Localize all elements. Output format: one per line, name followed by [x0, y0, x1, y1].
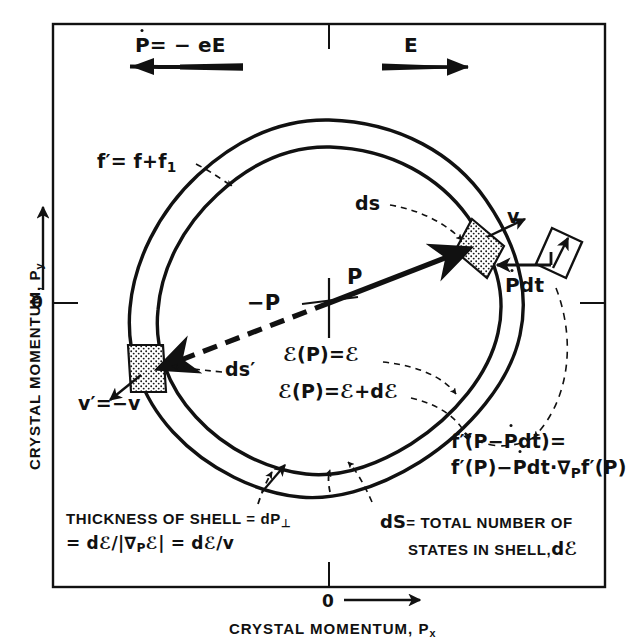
- leader-ds-prime: [172, 366, 222, 372]
- caption-thickness-line2-text: = dℰ/|∇: [66, 533, 136, 553]
- figure-canvas: P= − eE E f′= f+f1 ds ds′ v v′=−v P −P ℰ…: [0, 0, 626, 644]
- caption-thickness-line2-tail: ℰ| = dℰ/v: [146, 533, 234, 553]
- y-axis-title-sub: y: [33, 263, 45, 270]
- caption-total-states-line1-rest: = TOTAL NUMBER OF: [406, 514, 572, 531]
- caption-thickness-line1-text: THICKNESS OF SHELL = dP: [66, 510, 281, 527]
- caption-total-states-line2-tail: dℰ: [551, 538, 577, 559]
- displaced-shell-box: [536, 228, 582, 278]
- caption-total-states-line2: STATES IN SHELL,dℰ: [380, 535, 578, 562]
- field-arrow-right-label: E: [404, 33, 418, 57]
- label-velocity-left: v′=−v: [78, 392, 141, 414]
- equation-shift-line1-c: dt)=: [518, 430, 566, 452]
- label-ds-prime: ds′: [225, 358, 256, 380]
- caption-total-states-ds: dS: [380, 511, 406, 532]
- equation-shift-line2-pdot: P: [513, 454, 527, 480]
- caption-thickness-line1: THICKNESS OF SHELL = dP⊥: [66, 508, 291, 531]
- leader-shift-equation: [462, 288, 567, 446]
- leader-ds: [390, 205, 462, 240]
- caption-total-states-line2-text: STATES IN SHELL,: [408, 541, 551, 558]
- equation-shift-line2: f′(P)−Pdt·∇Pf′(P): [451, 454, 626, 483]
- x-axis-title-text: CRYSTAL MOMENTUM, P: [229, 620, 429, 637]
- label-energy-inner: ℰ(P)=ℰ: [283, 343, 359, 365]
- x-axis-origin-label: 0: [322, 591, 334, 611]
- field-arrow-right: [382, 58, 469, 76]
- equation-shift-line2-a: f′(P)−: [451, 456, 513, 478]
- label-velocity-left-lhs: v′: [78, 392, 96, 414]
- equation-shift: f′(P−Pdt)= f′(P)−Pdt·∇Pf′(P): [451, 428, 626, 483]
- label-velocity-right: v: [507, 205, 520, 227]
- equation-shift-line1-pdot: P: [504, 428, 518, 454]
- label-pdot-dt: Pdt: [505, 273, 544, 297]
- x-axis-title: CRYSTAL MOMENTUM, Px: [229, 620, 436, 639]
- equation-shift-line2-c: dt·∇: [527, 456, 571, 478]
- label-momentum-p: P: [347, 265, 363, 289]
- label-velocity-left-rhs: =−v: [96, 392, 141, 414]
- caption-thickness-line2-sub: P: [136, 542, 145, 556]
- force-arrow-left-rest: = − eE: [150, 33, 226, 57]
- y-axis-title-text: CRYSTAL MOMENTUM, P: [26, 270, 43, 470]
- label-ds: ds: [355, 192, 380, 214]
- equation-shift-line2-sub: P: [571, 465, 581, 481]
- pdot-dt-p-symbol: P: [505, 273, 520, 297]
- p-dot-symbol: P: [135, 33, 150, 57]
- equation-shift-line2-d: f′(P): [581, 456, 626, 478]
- force-arrow-left-label: P= − eE: [135, 33, 226, 57]
- caption-thickness-line1-sub: ⊥: [281, 517, 292, 529]
- equation-shift-line1: f′(P−Pdt)=: [451, 428, 626, 454]
- label-momentum-minus-p: −P: [247, 291, 280, 315]
- label-f-prime-sub: 1: [167, 159, 177, 175]
- caption-total-states: dS= TOTAL NUMBER OF STATES IN SHELL,dℰ: [380, 508, 578, 562]
- caption-thickness: THICKNESS OF SHELL = dP⊥ = dℰ/|∇Pℰ| = dℰ…: [66, 508, 291, 558]
- y-axis-title: CRYSTAL MOMENTUM, Py: [26, 263, 45, 470]
- force-arrow-left: [130, 58, 243, 75]
- label-f-prime-text: f′= f+f: [97, 150, 167, 172]
- leader-thickness: [258, 465, 285, 504]
- label-pdot-dt-rest: dt: [520, 273, 544, 297]
- leader-f-prime: [196, 164, 232, 186]
- caption-total-states-line1: dS= TOTAL NUMBER OF: [380, 508, 578, 535]
- equation-shift-line1-a: f′(P−: [451, 430, 504, 452]
- x-axis-title-sub: x: [429, 627, 436, 639]
- caption-thickness-line2: = dℰ/|∇Pℰ| = dℰ/v: [66, 531, 291, 558]
- label-f-prime: f′= f+f1: [97, 150, 176, 175]
- label-energy-outer: ℰ(P)=ℰ+dℰ: [278, 380, 398, 402]
